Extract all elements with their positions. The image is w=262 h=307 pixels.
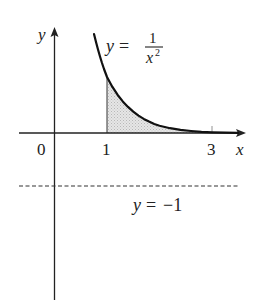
svg-text:=: = [146, 195, 156, 215]
tick-label-1: 1 [102, 140, 111, 159]
y-axis-label: y [36, 25, 46, 44]
svg-text:1: 1 [149, 30, 157, 46]
svg-text:y: y [104, 36, 114, 56]
horizontal-line-label: y = −1 [131, 195, 182, 215]
svg-text:x: x [145, 49, 153, 66]
graph-canvas: y x 0 1 3 y = 1 x 2 y = −1 [0, 0, 262, 307]
svg-text:−1: −1 [163, 195, 182, 215]
svg-text:=: = [119, 36, 129, 56]
function-label: y = 1 x 2 [104, 30, 163, 66]
origin-label: 0 [37, 140, 46, 159]
tick-label-3: 3 [207, 140, 216, 159]
svg-text:y: y [131, 195, 141, 215]
x-axis-label: x [235, 140, 244, 159]
svg-text:2: 2 [155, 47, 160, 58]
